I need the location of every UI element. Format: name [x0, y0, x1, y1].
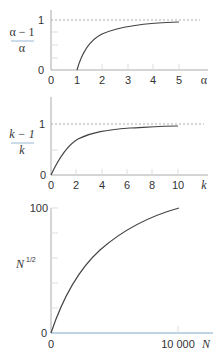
xlabel-alpha: α: [201, 73, 208, 87]
x-tick-0: 0: [48, 338, 54, 350]
x-tick: 0: [48, 179, 54, 191]
x-tick: 3: [125, 74, 131, 86]
chart-sqrt-n: 100 0 N 1/2 0 10 000 N: [15, 202, 213, 351]
x-tick: 6: [124, 179, 130, 191]
xlabel-k: k: [201, 178, 207, 192]
ylabel-denominator: k: [19, 143, 25, 157]
x-tick: 4: [150, 74, 156, 86]
x-tick: 2: [99, 74, 105, 86]
ylabel-denominator: α: [19, 41, 26, 55]
x-tick: 10: [172, 179, 184, 191]
x-tick: 4: [99, 179, 105, 191]
chart-alpha: 1 0 α − 1 α 0 1 2 3 4 5 α: [9, 10, 208, 87]
curve-sqrt-n: [51, 208, 179, 333]
xlabel-n: N: [201, 337, 211, 351]
ylabel-base: N: [15, 257, 25, 271]
x-tick: 0: [48, 74, 54, 86]
y-tick-100: 100: [30, 202, 48, 214]
x-tick-10000: 10 000: [161, 338, 195, 350]
x-tick: 5: [176, 74, 182, 86]
y-tick-1: 1: [38, 14, 44, 26]
charts-canvas: 1 0 α − 1 α 0 1 2 3 4 5 α 1 0 k − 1 k 0 …: [0, 0, 224, 357]
x-tick: 8: [149, 179, 155, 191]
y-tick-1: 1: [39, 118, 45, 130]
ylabel-numerator: α − 1: [9, 25, 34, 39]
ylabel-exponent: 1/2: [26, 256, 36, 263]
x-tick: 1: [74, 74, 80, 86]
y-tick-0: 0: [40, 169, 46, 181]
chart-k: 1 0 k − 1 k 0 2 4 6 8 10 k: [9, 97, 208, 192]
curve-k: [51, 126, 178, 175]
ylabel-numerator: k − 1: [9, 127, 34, 141]
curve-alpha: [77, 22, 179, 70]
y-tick-0: 0: [41, 327, 47, 339]
y-tick-0: 0: [38, 64, 44, 76]
x-tick: 2: [73, 179, 79, 191]
